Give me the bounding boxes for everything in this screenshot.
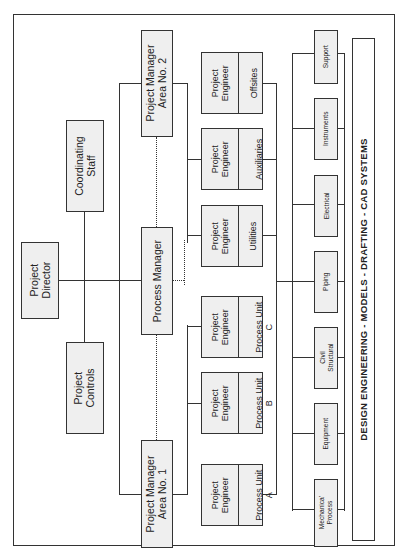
engineer-role-label: Project Engineer — [210, 477, 231, 513]
connector — [187, 159, 201, 160]
engineer-box-offsites: Project Engineer Offsites — [201, 52, 263, 114]
engineer-role-label: Project Engineer — [210, 65, 231, 101]
connector — [344, 53, 345, 511]
connector — [292, 357, 314, 358]
discipline-equipment: Equipment — [314, 403, 338, 465]
discipline-instruments: Instruments — [314, 98, 338, 160]
engineer-unit-label: Utilities — [248, 221, 258, 250]
connector — [119, 83, 141, 84]
discipline-civil-structural: Civil Structural — [314, 327, 338, 389]
connector — [337, 128, 345, 129]
connector — [337, 281, 345, 282]
engineer-role-label: Project Engineer — [210, 218, 231, 254]
discipline-label: Equipment — [322, 418, 330, 450]
engineer-role-label: Project Engineer — [210, 309, 231, 345]
engineer-role-label: Project Engineer — [210, 141, 231, 177]
connector — [292, 53, 314, 54]
engineer-unit-label: Process Unit A — [254, 469, 275, 520]
project-manager-area1-label: Project Manager Area No. 1 — [145, 455, 169, 532]
connector — [119, 83, 120, 495]
discipline-label: Electrical — [322, 193, 330, 220]
engineer-box-process-unit-b: Project Engineer Process Unit B — [201, 372, 263, 434]
connector — [187, 325, 188, 495]
engineer-box-utilities: Project Engineer Utilities — [201, 205, 263, 267]
connector — [337, 204, 345, 205]
connector — [187, 403, 201, 404]
connector — [292, 204, 314, 205]
engineer-box-process-unit-c: Project Engineer Process Unit C — [201, 296, 263, 358]
project-director-box: Project Director — [21, 242, 59, 319]
project-director-label: Project Director — [28, 262, 52, 299]
connector — [84, 212, 85, 342]
engineer-role-label: Project Engineer — [210, 385, 231, 421]
connector — [292, 281, 314, 282]
connector — [337, 509, 345, 510]
design-engineering-label: DESIGN ENGINEERING - MODELS - DRAFTING -… — [358, 138, 369, 441]
connector — [172, 494, 187, 495]
connector — [292, 433, 314, 434]
dotted-connector — [156, 137, 157, 227]
connector — [172, 83, 187, 84]
connector — [187, 326, 201, 327]
coordinating-staff-label: Coordinating Staff — [73, 136, 97, 196]
discipline-piping: Piping — [314, 251, 338, 313]
engineer-unit-label: Process Unit C — [254, 301, 275, 352]
connector — [187, 83, 188, 243]
discipline-mechanical-process: Mechanica' Process — [314, 479, 338, 547]
connector — [187, 235, 201, 236]
coordinating-staff-box: Coordinating Staff — [66, 120, 104, 212]
dotted-connector — [172, 280, 184, 281]
engineer-box-auxiliaries: Project Engineer Auxiliaries — [201, 128, 263, 190]
project-controls-box: Project Controls — [66, 342, 104, 434]
process-manager-box: Process Manager — [141, 227, 173, 335]
engineer-box-process-unit-a: Project Engineer Process Unit A — [201, 464, 263, 526]
connector — [58, 280, 142, 281]
dotted-connector — [184, 240, 185, 285]
discipline-label: Support — [322, 45, 330, 68]
discipline-label: Mechanica' Process — [318, 496, 333, 529]
project-manager-area2-box: Project Manager Area No. 2 — [141, 30, 173, 137]
discipline-label: Civil Structural — [318, 344, 333, 372]
discipline-label: Piping — [322, 273, 330, 291]
engineer-unit-label: Offsites — [249, 68, 259, 98]
connector — [292, 53, 293, 511]
process-manager-label: Process Manager — [151, 240, 163, 322]
discipline-support: Support — [314, 30, 338, 84]
connector — [292, 509, 314, 510]
engineer-unit-label: Process Unit B — [254, 377, 275, 428]
connector — [276, 281, 292, 282]
discipline-electrical: Electrical — [314, 175, 338, 237]
connector — [337, 433, 345, 434]
project-manager-area2-label: Project Manager Area No. 2 — [145, 45, 169, 122]
project-controls-label: Project Controls — [73, 368, 97, 407]
dotted-connector — [156, 334, 157, 440]
discipline-label: Instruments — [322, 112, 330, 146]
connector — [292, 128, 314, 129]
project-manager-area1-box: Project Manager Area No. 1 — [141, 440, 173, 548]
connector — [337, 357, 345, 358]
design-engineering-bar: DESIGN ENGINEERING - MODELS - DRAFTING -… — [352, 38, 375, 541]
connector — [119, 494, 141, 495]
engineer-unit-label: Auxiliaries — [254, 138, 264, 179]
connector — [337, 53, 345, 54]
